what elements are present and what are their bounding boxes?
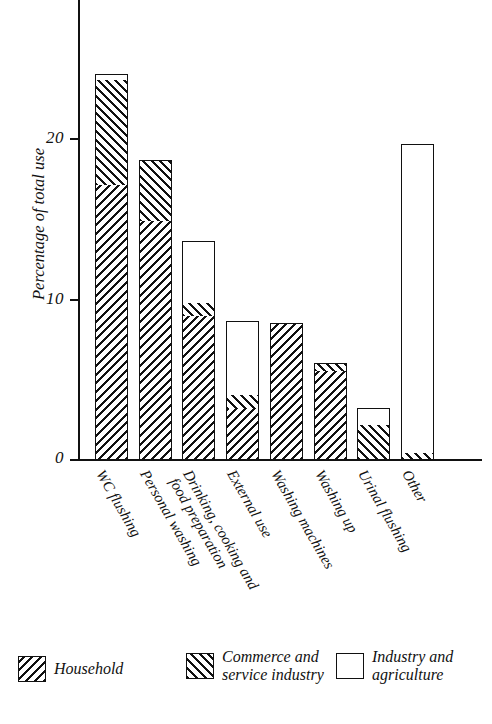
bar-1 <box>95 0 128 459</box>
bar-8 <box>401 0 434 459</box>
bar-5 <box>270 0 303 459</box>
bar-5-top-edge <box>270 323 303 324</box>
bar-4 <box>226 0 259 459</box>
legend-swatch-commerce-icon <box>186 653 214 679</box>
legend-label-industry: Industry and agriculture <box>372 648 453 684</box>
bar-1-segment-commerce <box>95 80 128 184</box>
x-axis-label-4: External use <box>224 467 276 540</box>
x-axis-label-8: Other <box>399 467 431 505</box>
bar-2 <box>139 0 172 459</box>
bar-6-top-edge <box>314 363 347 364</box>
bar-3-top-edge <box>182 241 215 242</box>
bar-4-top-edge <box>226 321 259 322</box>
bar-3-segment-household <box>182 316 215 459</box>
legend-label-commerce: Commerce and service industry <box>222 648 324 684</box>
plot-area: 20 10 0 Percentage of total use <box>0 0 492 470</box>
x-axis-label-1: WC flushing <box>93 467 144 540</box>
bar-7-segment-commerce <box>357 425 390 459</box>
bar-6 <box>314 0 347 459</box>
legend-item-industry: Industry and agriculture <box>336 648 453 684</box>
bar-8-top-edge <box>401 144 434 145</box>
category-labels: WC flushingPersonal washingDrinking, coo… <box>0 459 492 639</box>
x-axis-label-6: Washing up <box>311 467 360 536</box>
legend-swatch-industry-icon <box>336 653 364 679</box>
legend-item-commerce: Commerce and service industry <box>186 648 324 684</box>
chart-legend: Household Commerce and service industry … <box>0 650 492 710</box>
bar-4-segment-household <box>226 409 259 459</box>
bar-4-segment-industry <box>226 321 259 395</box>
bar-1-top-edge <box>95 74 128 75</box>
bar-7-segment-industry <box>357 408 390 426</box>
bar-3-segment-commerce <box>182 303 215 316</box>
bar-7-top-edge <box>357 408 390 409</box>
bar-1-segment-household <box>95 185 128 459</box>
legend-swatch-household-icon <box>18 656 46 682</box>
bars-layer <box>0 0 492 459</box>
bar-6-segment-commerce <box>314 363 347 371</box>
bar-5-segment-household <box>270 323 303 459</box>
bar-7 <box>357 0 390 459</box>
bar-2-segment-household <box>139 221 172 459</box>
bar-8-segment-industry <box>401 144 434 452</box>
bar-4-segment-commerce <box>226 395 259 409</box>
bar-2-segment-commerce <box>139 160 172 221</box>
bar-2-top-edge <box>139 160 172 161</box>
bar-chart: 20 10 0 Percentage of total use WC flush… <box>0 0 492 724</box>
bar-3-segment-industry <box>182 241 215 304</box>
bar-6-segment-household <box>314 371 347 459</box>
legend-item-household: Household <box>18 656 123 682</box>
legend-label-household: Household <box>54 660 123 678</box>
bar-3 <box>182 0 215 459</box>
